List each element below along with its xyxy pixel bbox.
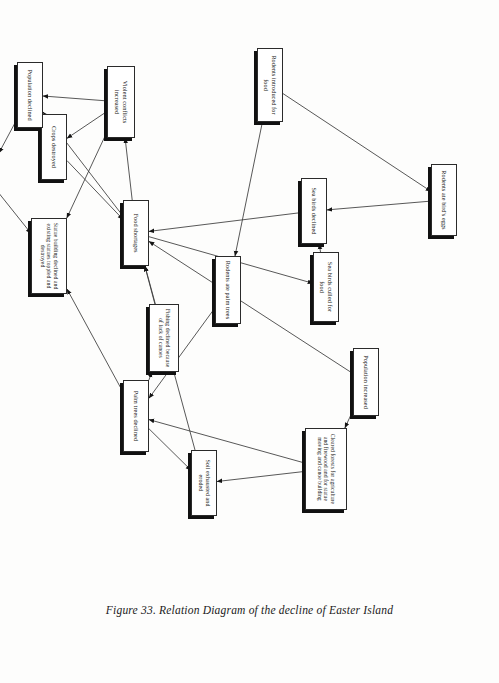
node-rodents-ate-eggs[interactable]: Rodents ate bird's eggs <box>431 164 457 236</box>
node-label: Rodents ate bird's eggs <box>440 170 448 229</box>
figure-page: Rodents introduced for food Rodents ate … <box>0 0 499 683</box>
edge-cleared_forests-to-soil_exhausted <box>217 471 305 481</box>
node-crops-destroyed[interactable]: Crops destroyed <box>41 114 67 180</box>
edge-violent_conflicts-to-population_declined <box>43 96 107 101</box>
node-soil-exhausted[interactable]: Soil exhausted and eroded <box>191 450 217 516</box>
node-label: Fishing declined because of lack of cano… <box>157 308 170 368</box>
edge-rodents_ate_eggs-to-sea_birds_declined <box>327 201 431 210</box>
node-label: Rodents introduced for food <box>262 52 277 118</box>
node-label: Sea birds declined <box>310 187 318 234</box>
node-label: Statue building declined and existing st… <box>39 222 59 290</box>
edge-palm_trees_declined-to-fishing_declined <box>148 372 151 380</box>
node-palm-trees-declined[interactable]: Palm trees declined <box>123 380 149 452</box>
edge-sea_birds_declined-to-food_shortages <box>149 212 301 231</box>
node-sea-birds-culled[interactable]: Sea birds culled for food <box>313 252 339 322</box>
node-violent-conflicts[interactable]: Violent conflicts increased <box>107 66 135 138</box>
node-label: Population increased <box>362 355 370 409</box>
node-food-shortages[interactable]: Food shortages <box>123 200 149 266</box>
edge-cleared_forests-to-palm_trees_declined <box>149 419 305 463</box>
figure-caption: Figure 33. Relation Diagram of the decli… <box>0 604 499 616</box>
node-population-increased[interactable]: Population increased <box>353 348 379 416</box>
edge-religion_collapsed-to-statue_building <box>0 193 31 233</box>
node-rodents-introduced[interactable]: Rodents introduced for food <box>257 48 283 122</box>
edge-sea_birds_culled-to-sea_birds_declined <box>319 244 320 252</box>
relation-diagram: Rodents introduced for food Rodents ate … <box>9 18 479 678</box>
edge-rodents_introduced-to-rodents_ate_palms <box>235 122 262 256</box>
node-label: Soil exhausted and eroded <box>196 454 211 512</box>
node-label: Cleared forests for agriculture and fire… <box>316 432 336 506</box>
node-label: Sea birds culled for food <box>318 256 333 318</box>
node-fishing-declined[interactable]: Fishing declined because of lack of cano… <box>149 304 179 372</box>
edge-palm_trees_declined-to-soil_exhausted <box>149 428 191 469</box>
edge-violent_conflicts-to-crops_destroyed <box>67 111 107 138</box>
edge-palm_trees_declined-to-statue_building <box>67 289 123 392</box>
node-label: Rodents ate palm trees <box>224 260 232 318</box>
edge-violent_conflicts-to-statue_building <box>66 131 106 217</box>
node-label: Palm trees declined <box>132 390 140 440</box>
edge-rodents_introduced-to-rodents_ate_eggs <box>283 93 431 191</box>
node-cleared-forests[interactable]: Cleared forests for agriculture and fire… <box>305 428 347 510</box>
edge-crops_destroyed-to-food_shortages <box>67 160 123 219</box>
edge-fishing_declined-to-food_shortages <box>144 266 154 304</box>
edge-population_increased-to-cleared_forests <box>344 410 352 428</box>
node-rodents-ate-palms[interactable]: Rodents ate palm trees <box>215 256 241 324</box>
node-label: Violent conflicts increased <box>113 70 128 134</box>
node-label: Food shortages <box>132 213 140 252</box>
edge-food_shortages-to-violent_conflicts <box>125 138 132 200</box>
edge-population_declined-to-religion_collapsed <box>0 119 17 153</box>
node-population-declined[interactable]: Population declined <box>17 62 43 128</box>
node-sea-birds-declined[interactable]: Sea birds declined <box>301 178 327 244</box>
edge-layer <box>9 18 479 678</box>
node-statue-building[interactable]: Statue building declined and existing st… <box>31 218 67 294</box>
node-label: Population declined <box>26 69 34 120</box>
node-label: Crops destroyed <box>50 126 58 168</box>
